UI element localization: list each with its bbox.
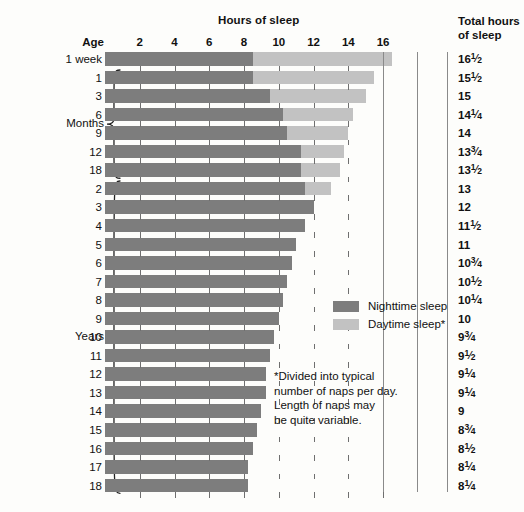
gridline bbox=[279, 121, 280, 127]
age-label: 12 bbox=[36, 146, 102, 158]
fraction-denominator: 2 bbox=[477, 278, 482, 288]
age-label: 9 bbox=[36, 313, 102, 325]
fraction-denominator: 4 bbox=[471, 389, 476, 399]
gridline bbox=[279, 474, 280, 480]
fraction-numerator: 3 bbox=[471, 255, 476, 265]
gridline bbox=[209, 177, 210, 183]
gridline bbox=[209, 381, 210, 387]
age-label: 6 bbox=[36, 257, 102, 269]
fraction-denominator: 4 bbox=[477, 111, 482, 121]
gridline bbox=[140, 195, 141, 201]
total-hours-fraction: 1⁄4 bbox=[471, 296, 482, 304]
total-hours-fraction: 3⁄4 bbox=[464, 333, 475, 341]
bar-row bbox=[105, 238, 417, 252]
nighttime-sleep-bar bbox=[105, 126, 287, 140]
age-label: 11 bbox=[36, 350, 102, 362]
age-label: 18 bbox=[36, 480, 102, 492]
x-tick-12: 12 bbox=[302, 36, 326, 48]
gridline bbox=[140, 437, 141, 443]
gridline bbox=[314, 214, 315, 220]
gridline bbox=[348, 344, 349, 350]
gridline bbox=[348, 437, 349, 443]
legend-label-day: Daytime sleep* bbox=[368, 318, 445, 330]
gridline bbox=[140, 66, 141, 72]
gridline bbox=[209, 121, 210, 127]
gridline bbox=[209, 492, 210, 498]
fraction-denominator: 4 bbox=[477, 148, 482, 158]
nighttime-sleep-bar bbox=[105, 367, 266, 381]
nighttime-sleep-bar bbox=[105, 182, 305, 196]
gridline bbox=[244, 399, 245, 405]
fraction-numerator: 1 bbox=[464, 348, 469, 358]
gridline bbox=[209, 103, 210, 109]
gridline bbox=[244, 455, 245, 461]
gridline bbox=[348, 66, 349, 72]
gridline bbox=[175, 399, 176, 405]
total-hours-fraction: 3⁄4 bbox=[471, 148, 482, 156]
fraction-denominator: 4 bbox=[477, 259, 482, 269]
age-label: 13 bbox=[36, 387, 102, 399]
total-hours-value: 91⁄4 bbox=[458, 368, 514, 380]
gridline bbox=[140, 251, 141, 257]
total-hours-whole: 16 bbox=[458, 53, 471, 65]
bar-row bbox=[105, 349, 417, 363]
fraction-numerator: 1 bbox=[471, 107, 476, 117]
gridline bbox=[279, 232, 280, 238]
fraction-numerator: 1 bbox=[471, 70, 476, 80]
age-label: 9 bbox=[36, 127, 102, 139]
total-hours-whole: 9 bbox=[458, 405, 464, 417]
total-hours-fraction: 1⁄2 bbox=[471, 55, 482, 63]
gridline bbox=[348, 84, 349, 90]
total-hours-value: 81⁄4 bbox=[458, 461, 514, 473]
gridline bbox=[209, 158, 210, 164]
total-hours-whole: 13 bbox=[458, 146, 471, 158]
gridline bbox=[175, 195, 176, 201]
gridline bbox=[348, 195, 349, 201]
age-column-header: Age bbox=[64, 36, 104, 48]
daytime-sleep-bar bbox=[283, 108, 353, 122]
daytime-sleep-bar bbox=[301, 163, 340, 177]
total-hours-fraction: 3⁄4 bbox=[471, 259, 482, 267]
total-hours-header: Total hours of sleep bbox=[458, 14, 524, 42]
gridline bbox=[348, 158, 349, 164]
gridline bbox=[244, 437, 245, 443]
gridline bbox=[244, 158, 245, 164]
total-hours-fraction: 1⁄2 bbox=[464, 445, 475, 453]
gridline bbox=[140, 381, 141, 387]
group-label-months: Months bbox=[34, 117, 104, 129]
nighttime-sleep-bar bbox=[105, 89, 270, 103]
fraction-numerator: 1 bbox=[464, 478, 469, 488]
total-hours-value: 81⁄4 bbox=[458, 480, 514, 492]
x-tick-2: 2 bbox=[128, 36, 152, 48]
nighttime-sleep-bar bbox=[105, 256, 292, 270]
bar-row bbox=[105, 460, 417, 474]
bar-row bbox=[105, 126, 417, 140]
gridline bbox=[175, 140, 176, 146]
gridline bbox=[209, 214, 210, 220]
gridline bbox=[348, 140, 349, 146]
gridline bbox=[279, 492, 280, 498]
age-label: 4 bbox=[36, 220, 102, 232]
gridline bbox=[244, 177, 245, 183]
gridline bbox=[244, 362, 245, 368]
age-label: 3 bbox=[36, 90, 102, 102]
bar-row bbox=[105, 163, 417, 177]
gridline bbox=[175, 251, 176, 257]
gridline bbox=[209, 307, 210, 313]
total-hours-value: 91⁄2 bbox=[458, 350, 514, 362]
total-hours-fraction: 1⁄4 bbox=[464, 370, 475, 378]
gridline bbox=[348, 288, 349, 294]
gridline bbox=[140, 214, 141, 220]
gridline bbox=[279, 325, 280, 331]
gridline bbox=[348, 270, 349, 276]
total-hours-header-line2: of sleep bbox=[458, 28, 524, 42]
legend-swatch-day bbox=[333, 319, 359, 330]
total-hours-fraction: 1⁄4 bbox=[471, 111, 482, 119]
daytime-sleep-bar bbox=[270, 89, 366, 103]
total-hours-whole: 14 bbox=[458, 127, 471, 139]
gridline bbox=[279, 270, 280, 276]
fraction-numerator: 1 bbox=[464, 366, 469, 376]
age-label: 14 bbox=[36, 405, 102, 417]
gridline bbox=[175, 66, 176, 72]
